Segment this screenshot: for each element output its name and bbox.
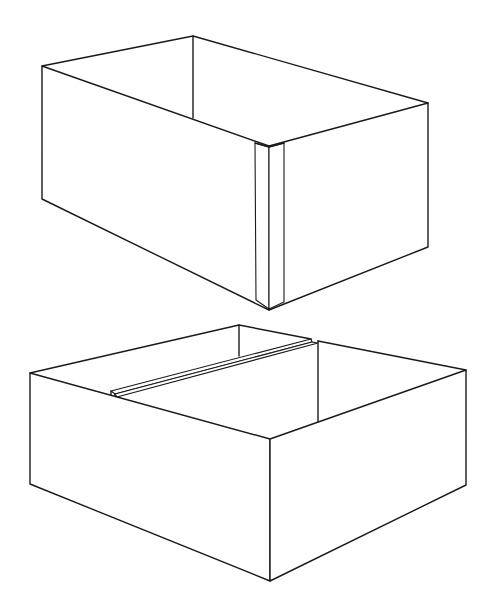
- bottom-box-right-face: [270, 370, 466, 581]
- bottom-box-left-face: [30, 373, 270, 581]
- divider-side-face: [115, 342, 318, 397]
- top-box-right-face: [269, 103, 428, 310]
- bottom-box-back-rim-right: [318, 341, 466, 370]
- top-box-corner-tape: [255, 143, 284, 309]
- boxes-illustration: [0, 0, 496, 616]
- bottom-box: [30, 325, 466, 581]
- bottom-box-back-rim-left: [30, 325, 311, 373]
- tape-right-panel: [269, 143, 284, 309]
- top-box: [42, 36, 428, 310]
- tape-left-panel: [255, 143, 269, 309]
- top-box-left-face: [42, 66, 269, 310]
- diagram-canvas: [0, 0, 496, 616]
